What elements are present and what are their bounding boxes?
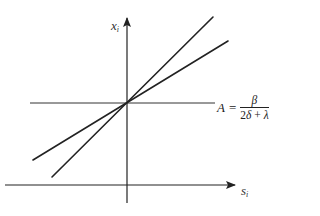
flat-line [33, 41, 228, 160]
formula-label: A = β 2δ + λ [217, 94, 269, 121]
formula-denominator: 2δ + λ [240, 108, 268, 121]
formula-fraction: β 2δ + λ [240, 94, 268, 121]
formula-lhs: A [217, 100, 225, 116]
denominator-lambda: λ [264, 109, 269, 121]
formula-equals: = [229, 100, 236, 116]
denominator-plus: + [251, 109, 263, 121]
axis-label-subscript: i [246, 190, 248, 199]
formula-numerator: β [250, 94, 260, 107]
horizontal-axis-label: si [241, 184, 248, 199]
axis-label-subscript: i [117, 25, 119, 34]
steep-line [52, 17, 213, 177]
vertical-axis-label: xi [111, 19, 119, 34]
